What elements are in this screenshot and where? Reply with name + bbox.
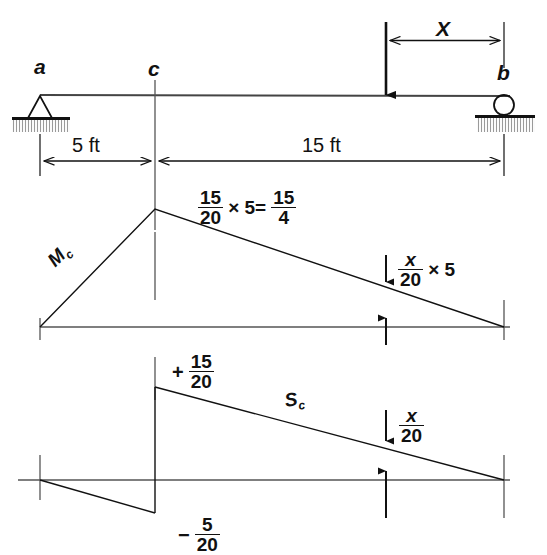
beam-assembly [12, 22, 535, 132]
moment-ordinate-expression: x 20 × 5 [398, 250, 455, 290]
fraction-x-20-shear: x 20 [399, 406, 424, 446]
sign-positive: + [172, 362, 184, 382]
label-point-b: b [497, 62, 510, 83]
span-dimension-line [40, 134, 504, 176]
label-load-x: X [436, 18, 450, 39]
label-shear-curve: Sc [283, 388, 306, 414]
ground-hatch-a [12, 120, 70, 132]
fraction-5-20-shear: 5 20 [195, 515, 220, 555]
pin-support-a [12, 96, 70, 132]
beam-line [40, 95, 510, 96]
shear-positive-value: + 15 20 [172, 352, 214, 392]
shear-influence-line [18, 357, 510, 518]
shear-negative-value: − 5 20 [178, 515, 220, 555]
figure-canvas: a c b X 5 ft 15 ft Mc 15 20 × 5= 15 4 x … [0, 0, 547, 555]
operator-times-5-ordinate: × 5 [428, 260, 455, 279]
moment-peak-expression: 15 20 × 5= 15 4 [198, 188, 296, 228]
operator-times-5: × 5= [228, 198, 266, 217]
label-point-c: c [148, 58, 160, 79]
label-point-a: a [34, 56, 46, 77]
sign-negative: − [178, 525, 190, 545]
label-dimension-5ft: 5 ft [72, 135, 100, 155]
diagram-svg [0, 0, 547, 555]
roller-support-b [475, 95, 535, 132]
fraction-x-20-moment: x 20 [398, 250, 423, 290]
shear-curve-negative [40, 480, 155, 513]
fraction-15-20-shear: 15 20 [189, 352, 214, 392]
label-dimension-15ft: 15 ft [302, 135, 341, 155]
shear-ordinate-expression: x 20 [399, 406, 424, 446]
shear-curve-positive [155, 387, 504, 480]
ground-hatch-b [477, 118, 535, 132]
fraction-15-20: 15 20 [198, 188, 223, 228]
fraction-15-4: 15 4 [271, 188, 296, 228]
